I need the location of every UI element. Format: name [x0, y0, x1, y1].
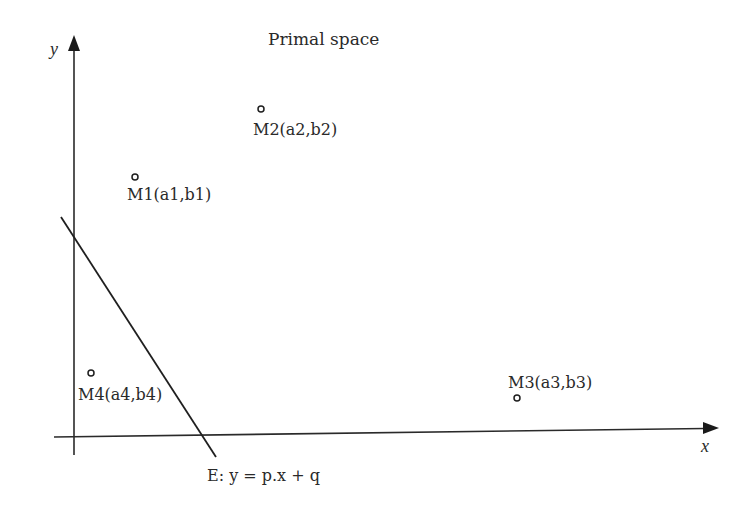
y-axis-label: y: [48, 39, 58, 59]
x-axis-arrow-icon: [703, 422, 719, 434]
x-axis: x: [54, 422, 719, 456]
point-label: M1(a1,b1): [127, 185, 211, 204]
point-m4: M4(a4,b4): [78, 370, 162, 404]
line-e-label: E: y = p.x + q: [207, 466, 320, 485]
line-e: E: y = p.x + q: [61, 217, 320, 485]
diagram-title: Primal space: [268, 29, 379, 49]
point-m2: M2(a2,b2): [253, 106, 337, 139]
y-axis-arrow-icon: [68, 35, 80, 51]
point-m3: M3(a3,b3): [508, 373, 592, 401]
point-marker-icon: [88, 370, 94, 376]
point-label: M2(a2,b2): [253, 120, 337, 139]
x-axis-label: x: [700, 436, 709, 456]
point-marker-icon: [258, 106, 264, 112]
primal-space-diagram: Primal space y x E: y = p.x + q M1(a1,b1…: [0, 0, 749, 513]
point-marker-icon: [132, 174, 138, 180]
point-m1: M1(a1,b1): [127, 174, 211, 204]
point-label: M4(a4,b4): [78, 385, 162, 404]
point-label: M3(a3,b3): [508, 373, 592, 392]
point-marker-icon: [514, 395, 520, 401]
y-axis: y: [48, 35, 80, 455]
